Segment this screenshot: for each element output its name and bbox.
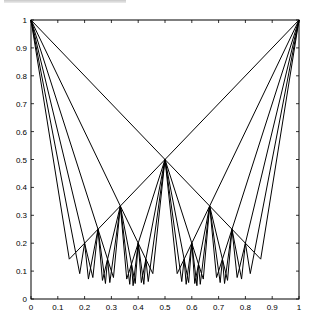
tree-segment <box>165 160 210 207</box>
tree-segment <box>31 20 69 259</box>
y-tick-label: 0.3 <box>16 211 28 220</box>
y-tick-label: 0.8 <box>16 72 28 81</box>
tree-lines <box>31 20 299 286</box>
y-tick-label: 0.1 <box>16 267 28 276</box>
tree-segment <box>69 253 75 260</box>
tree-segment <box>31 20 120 206</box>
tree-segment <box>31 20 165 160</box>
x-tick-label: 0.1 <box>52 303 64 312</box>
x-tick-label: 0.8 <box>240 303 252 312</box>
x-tick-label: 0.9 <box>267 303 279 312</box>
tree-segment <box>113 206 120 278</box>
x-tick-label: 1 <box>297 303 302 312</box>
x-tick-label: 0.3 <box>106 303 118 312</box>
tree-segment <box>148 268 150 282</box>
tree-segment <box>261 20 299 259</box>
tree-segment <box>242 243 246 279</box>
tree-segment <box>31 20 76 253</box>
tree-segment <box>76 253 80 274</box>
tree-segment <box>254 20 299 253</box>
tree-segment <box>210 206 217 278</box>
x-tick-label: 0 <box>29 303 34 312</box>
tree-segment <box>232 20 299 229</box>
tree-segment <box>165 20 299 160</box>
tree-segment <box>225 274 226 284</box>
y-tick-label: 0 <box>23 295 28 304</box>
x-tick-label: 0.7 <box>213 303 225 312</box>
tree-segment <box>245 20 299 243</box>
x-tick-label: 0.2 <box>79 303 91 312</box>
farey-tree-chart: 00.10.20.30.40.50.60.70.80.9100.10.20.30… <box>0 0 315 326</box>
y-tick-label: 0.4 <box>16 183 28 192</box>
x-tick-label: 0.6 <box>186 303 198 312</box>
tree-segment <box>254 253 260 260</box>
tree-segment <box>98 206 120 229</box>
tree-segment <box>120 160 165 207</box>
tree-segment <box>237 268 239 278</box>
y-tick-label: 0.9 <box>16 44 28 53</box>
y-tick-label: 0.2 <box>16 239 28 248</box>
tree-segment <box>177 268 180 274</box>
tree-segment <box>31 20 85 243</box>
tree-segment <box>110 271 112 282</box>
y-tick-label: 0.7 <box>16 100 28 109</box>
y-tick-label: 1 <box>23 16 28 25</box>
tree-segment <box>200 274 201 285</box>
tree-segment <box>210 206 232 229</box>
tree-segment <box>210 20 299 206</box>
tree-segment <box>88 268 90 279</box>
tree-segment <box>250 253 254 274</box>
y-tick-label: 0.6 <box>16 128 28 137</box>
tree-segment <box>153 160 165 274</box>
tree-segment <box>85 243 89 279</box>
tree-segment <box>165 160 177 274</box>
tree-segment <box>31 20 98 229</box>
x-tick-label: 0.5 <box>159 303 171 312</box>
y-tick-label: 0.5 <box>16 156 28 165</box>
x-tick-label: 0.4 <box>133 303 145 312</box>
